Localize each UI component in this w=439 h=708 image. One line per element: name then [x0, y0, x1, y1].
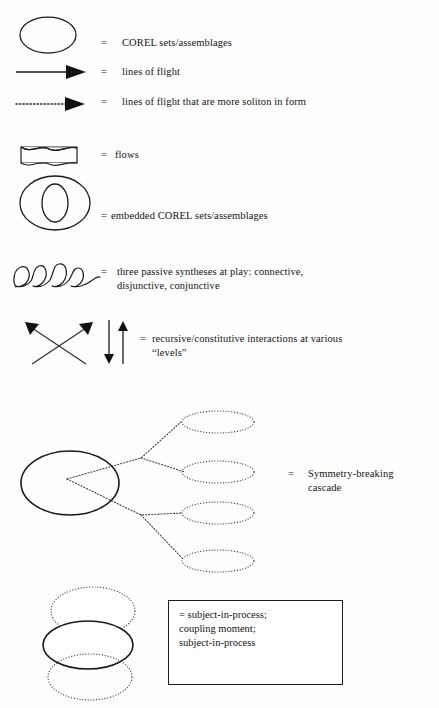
equals-sign-cascade: = — [288, 467, 294, 481]
cascade-node-4 — [182, 550, 254, 572]
equals-sign-flows: = — [101, 148, 107, 162]
three-stacked-ellipses-icon — [33, 583, 163, 703]
cascade-node-1 — [182, 411, 254, 433]
dotted-arrow-right-icon — [14, 93, 90, 113]
equals-sign-corel-sets: = — [101, 36, 107, 50]
legend-label-embedded-corel: =embedded COREL sets/assemblages — [101, 195, 268, 222]
legend-label-cascade: Symmetry-breaking cascade — [308, 467, 394, 494]
legend-label-flows: flows — [115, 148, 139, 162]
cascade-branches — [67, 422, 185, 558]
equals-sign-recursive: = — [140, 332, 146, 346]
up-down-arrows-icon — [101, 318, 133, 366]
stack-ellipse-middle — [43, 621, 133, 669]
equals-sign-embedded: = — [101, 210, 107, 221]
equals-sign-syntheses: = — [101, 265, 107, 279]
subject-in-process-text: = subject-in-process; coupling moment; s… — [179, 608, 267, 650]
legend-label-soliton: lines of flight that are more soliton in… — [122, 95, 306, 109]
legend-label-corel-sets: COREL sets/assemblages — [122, 36, 232, 50]
open-ellipse-icon — [14, 12, 82, 58]
solid-arrow-right-icon — [14, 62, 90, 82]
cascade-node-3 — [182, 502, 254, 524]
legend-page: = COREL sets/assemblages = lines of flig… — [0, 0, 439, 708]
subject-in-process-box: = subject-in-process; coupling moment; s… — [168, 600, 343, 685]
legend-label-lines-of-flight: lines of flight — [122, 65, 180, 79]
hand-drawn-loops-icon — [10, 255, 102, 293]
nested-ellipse-icon — [14, 172, 96, 234]
equals-sign-lines-of-flight: = — [101, 65, 107, 79]
legend-label-recursive: recursive/constitutive interactions at v… — [152, 332, 342, 359]
cascade-source-ellipse — [21, 451, 119, 515]
legend-label-syntheses: three passive syntheses at play: connect… — [117, 265, 303, 292]
wavy-rectangle-icon — [18, 143, 80, 167]
cascade-diagram-icon — [10, 395, 272, 575]
cascade-node-2 — [182, 461, 254, 483]
crossed-arrows-icon — [18, 316, 100, 368]
legend-label-embedded-text: embedded COREL sets/assemblages — [111, 210, 268, 221]
equals-sign-soliton: = — [101, 95, 107, 109]
